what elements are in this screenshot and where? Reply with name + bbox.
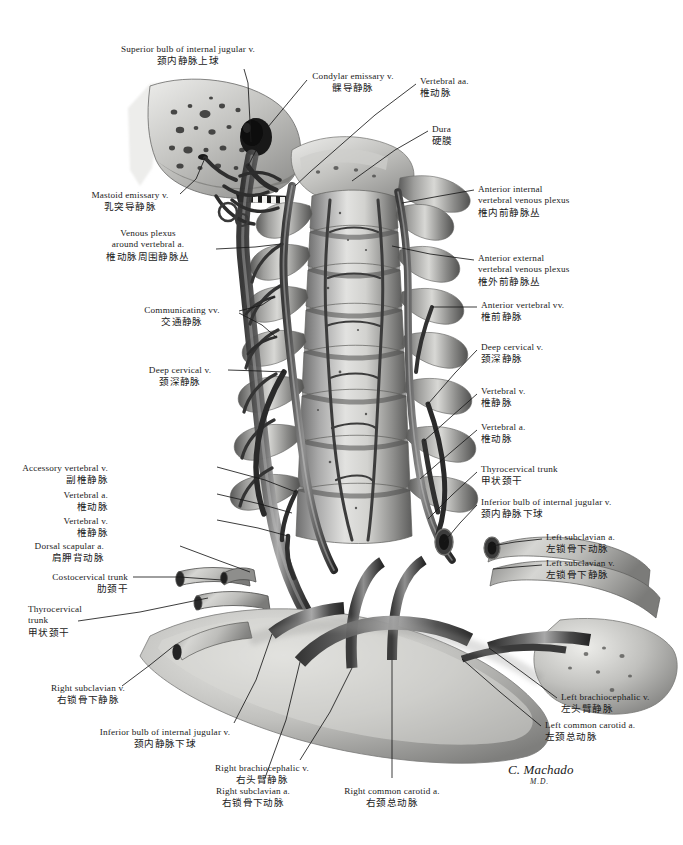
label-text-zh: 椎前静脉	[481, 311, 564, 322]
label-right-common-carotid-a: Right common carotid a.右颈总动脉	[344, 786, 440, 809]
label-text-zh: 右锁骨下静脉	[51, 694, 125, 705]
label-dura: Dura硬膜	[432, 124, 453, 147]
label-text-zh: 左头臂静脉	[561, 703, 650, 714]
label-text-en: Vertebral aa.	[420, 76, 469, 87]
label-text-en: Costocervical trunk	[52, 572, 128, 583]
label-text-en: vertebral venous plexus	[478, 195, 570, 206]
label-left-brachiocephalic-v: Left brachiocephalic v.左头臂静脉	[561, 692, 650, 715]
label-text-zh: 甲状颈干	[481, 475, 558, 486]
label-text-zh: 椎动脉	[481, 433, 526, 444]
label-text-en: vertebral venous plexus	[478, 264, 570, 275]
label-text-en: Left subclavian v.	[546, 558, 615, 569]
label-text-en: Deep cervical v.	[149, 365, 211, 376]
artist-signature: C. Machado M.D.	[508, 760, 574, 786]
label-deep-cervical-v-right: Deep cervical v.颈深静脉	[481, 342, 543, 365]
label-inferior-bulb-internal-jugular-v-left: Inferior bulb of internal jugular v.颈内静脉…	[100, 727, 231, 750]
label-right-subclavian-v: Right subclavian v.右锁骨下静脉	[51, 683, 125, 706]
anatomy-illustration	[0, 0, 683, 845]
label-text-zh: 乳突导静脉	[91, 201, 168, 212]
label-inferior-bulb-internal-jugular-v-right: Inferior bulb of internal jugular v.颈内静脉…	[481, 497, 612, 520]
label-vertebral-a-right: Vertebral a.椎动脉	[481, 422, 526, 445]
label-text-zh: 椎静脉	[64, 527, 108, 538]
label-text-zh: 甲状颈干	[28, 627, 82, 638]
label-text-zh: 髁导静脉	[312, 82, 393, 93]
label-vertebral-aa: Vertebral aa.椎动脉	[420, 76, 469, 99]
label-text-en: Vertebral v.	[64, 516, 108, 527]
label-text-en: Thyrocervical trunk	[481, 464, 558, 475]
label-text-zh: 椎动脉周围静脉丛	[106, 251, 189, 262]
label-text-zh: 交通静脉	[144, 316, 220, 327]
label-text-zh: 肋颈干	[52, 583, 128, 594]
label-text-en: Condylar emissary v.	[312, 71, 393, 82]
signature-credential: M.D.	[530, 777, 574, 786]
label-text-zh: 颈内静脉下球	[100, 738, 231, 749]
label-text-en: Anterior vertebral vv.	[481, 300, 564, 311]
label-text-zh: 左锁骨下静脉	[546, 569, 615, 580]
label-text-zh: 右头臂静脉	[215, 774, 309, 785]
label-text-zh: 颈内静脉上球	[121, 55, 255, 66]
label-text-zh: 左颈总动脉	[545, 731, 635, 742]
label-text-zh: 椎动脉	[63, 501, 108, 512]
label-text-zh: 椎静脉	[481, 397, 525, 408]
label-text-en: Right subclavian a.	[216, 786, 290, 797]
label-right-brachiocephalic-v: Right brachiocephalic v.右头臂静脉	[215, 763, 309, 786]
label-thyrocervical-trunk-right: Thyrocervical trunk甲状颈干	[481, 464, 558, 487]
label-text-en: Anterior external	[478, 253, 570, 264]
label-text-en: Left common carotid a.	[545, 720, 635, 731]
label-text-en: Superior bulb of internal jugular v.	[121, 44, 255, 55]
label-superior-bulb-internal-jugular-v: Superior bulb of internal jugular v.颈内静脉…	[121, 44, 255, 67]
label-right-subclavian-a: Right subclavian a.右锁骨下动脉	[216, 786, 290, 809]
label-left-common-carotid-a: Left common carotid a.左颈总动脉	[545, 720, 635, 743]
label-text-en: Deep cervical v.	[481, 342, 543, 353]
label-text-zh: 颈内静脉下球	[481, 508, 612, 519]
label-text-en: Left brachiocephalic v.	[561, 692, 650, 703]
label-text-en: Thyrocervical	[28, 604, 82, 615]
label-text-zh: 椎内前静脉丛	[478, 207, 570, 218]
temporal-bone-region	[128, 79, 301, 204]
label-vertebral-v-right: Vertebral v.椎静脉	[481, 386, 525, 409]
label-left-subclavian-a: Left subclavian a.左锁骨下动脉	[546, 532, 615, 555]
label-text-en: Left subclavian a.	[546, 532, 615, 543]
label-communicating-vv: Communicating vv.交通静脉	[144, 305, 220, 328]
label-anterior-vertebral-vv: Anterior vertebral vv.椎前静脉	[481, 300, 564, 323]
label-anterior-external-vertebral-venous-plexus: Anterior externalvertebral venous plexus…	[478, 253, 570, 287]
label-venous-plexus-around-vertebral-a: Venous plexusaround vertebral a.椎动脉周围静脉丛	[106, 228, 189, 262]
label-text-zh: 椎动脉	[420, 87, 469, 98]
label-text-en: Anterior internal	[478, 184, 570, 195]
label-condylar-emissary-v: Condylar emissary v.髁导静脉	[312, 71, 393, 94]
label-text-zh: 右颈总动脉	[344, 797, 440, 808]
label-text-en: Right subclavian v.	[51, 683, 125, 694]
label-dorsal-scapular-a: Dorsal scapular a.肩胛背动脉	[35, 541, 104, 564]
label-text-en: Accessory vertebral v.	[22, 463, 108, 474]
label-text-en: Dorsal scapular a.	[35, 541, 104, 552]
label-text-en: Venous plexus	[106, 228, 189, 239]
signature-name: C. Machado	[508, 762, 574, 777]
label-mastoid-emissary-v: Mastoid emissary v.乳突导静脉	[91, 190, 168, 213]
label-left-subclavian-v: Left subclavian v.左锁骨下静脉	[546, 558, 615, 581]
label-text-en: Dura	[432, 124, 453, 135]
label-text-zh: 副椎静脉	[22, 474, 108, 485]
label-text-zh: 右锁骨下动脉	[216, 797, 290, 808]
label-text-en: Inferior bulb of internal jugular v.	[481, 497, 612, 508]
label-text-zh: 硬膜	[432, 135, 453, 146]
label-text-zh: 椎外前静脉丛	[478, 276, 570, 287]
label-text-en: Vertebral v.	[481, 386, 525, 397]
label-thyrocervical-trunk-left: Thyrocervicaltrunk甲状颈干	[28, 604, 82, 638]
label-text-zh: 颈深静脉	[149, 376, 211, 387]
label-anterior-internal-vertebral-venous-plexus: Anterior internalvertebral venous plexus…	[478, 184, 570, 218]
label-costocervical-trunk: Costocervical trunk肋颈干	[52, 572, 128, 595]
label-text-en: around vertebral a.	[106, 239, 189, 250]
label-text-en: Vertebral a.	[481, 422, 526, 433]
label-vertebral-v-left: Vertebral v.椎静脉	[64, 516, 108, 539]
label-text-en: Communicating vv.	[144, 305, 220, 316]
label-text-zh: 左锁骨下动脉	[546, 543, 615, 554]
label-vertebral-a-left: Vertebral a.椎动脉	[63, 490, 108, 513]
label-text-en: Right brachiocephalic v.	[215, 763, 309, 774]
label-accessory-vertebral-v: Accessory vertebral v.副椎静脉	[22, 463, 108, 486]
label-text-en: Right common carotid a.	[344, 786, 440, 797]
label-text-en: Mastoid emissary v.	[91, 190, 168, 201]
label-text-zh: 肩胛背动脉	[35, 552, 104, 563]
label-deep-cervical-v-left: Deep cervical v.颈深静脉	[149, 365, 211, 388]
anatomical-plate: Superior bulb of internal jugular v.颈内静脉…	[0, 0, 683, 845]
label-text-en: Inferior bulb of internal jugular v.	[100, 727, 231, 738]
